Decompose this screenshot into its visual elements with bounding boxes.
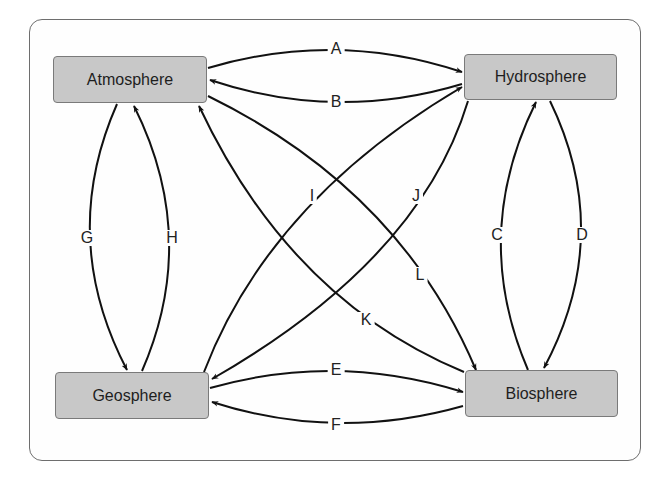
edge-label-d: D — [573, 227, 591, 243]
edge-label-e: E — [328, 362, 345, 378]
edge-label-l: L — [413, 267, 428, 283]
edge-label-j: J — [409, 188, 423, 204]
node-atmosphere: Atmosphere — [53, 56, 207, 103]
node-hydrosphere: Hydrosphere — [464, 54, 617, 100]
node-biosphere: Biosphere — [465, 370, 618, 417]
edge-c — [501, 102, 536, 370]
edge-k — [199, 106, 464, 372]
node-geosphere: Geosphere — [55, 372, 209, 419]
edge-label-a: A — [328, 41, 345, 57]
edge-label-c: C — [488, 227, 506, 243]
edge-label-k: K — [358, 312, 375, 328]
edge-label-b: B — [328, 94, 345, 110]
edge-i — [204, 87, 462, 372]
edge-l — [208, 96, 476, 370]
edge-label-f: F — [328, 417, 344, 433]
edge-j — [212, 101, 468, 379]
edge-label-g: G — [78, 230, 96, 246]
edge-label-h: H — [163, 230, 181, 246]
edge-label-i: I — [307, 188, 317, 204]
